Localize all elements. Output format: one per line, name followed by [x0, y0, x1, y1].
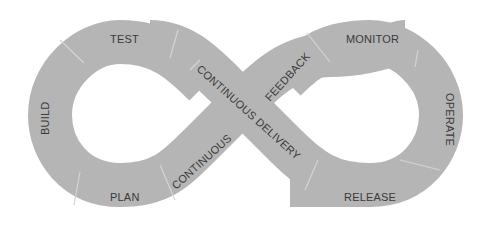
stage-label-plan: PLAN: [110, 191, 140, 203]
stage-label-operate: OPERATE: [444, 93, 456, 146]
devops-infinity-diagram: TEST BUILD PLAN CONTINUOUS CONTINUOUS DE…: [0, 0, 491, 229]
stage-label-test: TEST: [110, 33, 139, 45]
stage-label-monitor: MONITOR: [346, 33, 399, 45]
stage-label-release: RELEASE: [344, 191, 396, 203]
stage-label-build: BUILD: [39, 102, 51, 135]
